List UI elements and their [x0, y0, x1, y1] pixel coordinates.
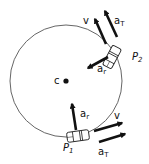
- tangential-accel-arrow-p1: [99, 134, 125, 142]
- tangential-accel-label-p1: aT: [98, 146, 109, 159]
- radial-accel-arrow-p1: [72, 104, 76, 130]
- center-label: c: [54, 75, 60, 86]
- point-p2-group: v aT ar P2: [83, 11, 143, 76]
- radial-accel-label-p1: ar: [80, 108, 89, 121]
- velocity-label-p2: v: [83, 15, 89, 26]
- center-dot: [63, 78, 68, 83]
- point-p1-group: ar v aT P1: [63, 104, 125, 159]
- point-label-p1: P1: [63, 142, 74, 155]
- car-p1-icon: [66, 130, 89, 143]
- velocity-arrow-p2: [95, 19, 106, 44]
- tangential-accel-label-p2: aT: [114, 15, 125, 28]
- car-p2-icon: [102, 45, 121, 69]
- velocity-label-p1: v: [114, 110, 120, 121]
- point-label-p2: P2: [132, 51, 143, 64]
- circular-motion-diagram: c v aT ar P2: [0, 0, 149, 164]
